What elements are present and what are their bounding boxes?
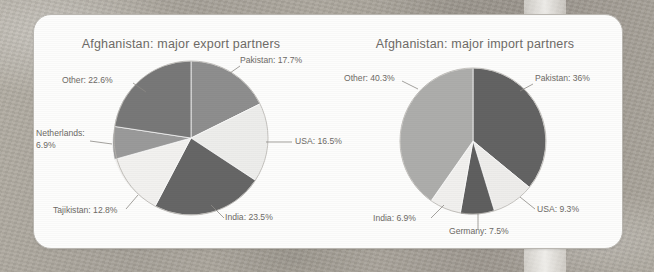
export-label-netherlands-line1: Netherlands: [36, 128, 85, 139]
leader-line-pakistan [230, 66, 240, 73]
import-label-pakistan: Pakistan: 36% [535, 73, 590, 84]
leader-line-other [402, 81, 418, 89]
export-partners-chart: Afghanistan: major export partners P [34, 15, 328, 248]
import-label-other: Other: 40.3% [344, 73, 395, 84]
leader-line-netherlands [90, 141, 112, 144]
export-label-india: India: 23.5% [225, 212, 273, 223]
leader-line-india [431, 205, 444, 218]
leader-line-usa [520, 197, 535, 209]
import-label-india: India: 6.9% [373, 213, 416, 224]
leader-line-tajikistan [126, 195, 138, 209]
import-label-usa: USA: 9.3% [537, 204, 579, 215]
figure-card: Afghanistan: major export partners P [33, 14, 623, 249]
export-label-netherlands-line2: 6.9% [36, 140, 56, 151]
pie-slice-other [114, 61, 191, 138]
import-label-germany: Germany: 7.5% [449, 226, 509, 237]
export-label-pakistan: Pakistan: 17.7% [240, 55, 302, 66]
export-label-tajikistan: Tajikistan: 12.8% [53, 205, 118, 216]
import-partners-chart: Afghanistan: major import partners Pakis… [328, 15, 622, 248]
export-label-other: Other: 22.6% [62, 75, 113, 86]
